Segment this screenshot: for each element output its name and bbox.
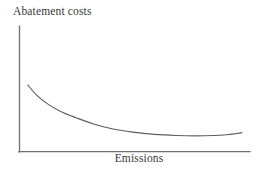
x-axis-label: Emissions [0, 152, 278, 165]
abatement-cost-curve [28, 85, 242, 136]
y-axis-label: Abatement costs [13, 5, 92, 18]
chart-plot-area [0, 0, 278, 172]
chart-figure: Abatement costs Emissions [0, 0, 278, 172]
